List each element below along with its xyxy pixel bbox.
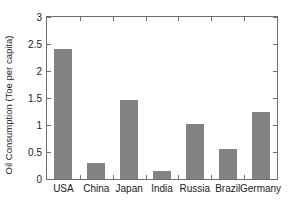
x-axis-tick-mirror <box>211 17 212 21</box>
y-axis-tick-mirror <box>273 17 277 18</box>
x-axis-tick-mirror <box>146 17 147 21</box>
x-axis-tick <box>80 175 81 179</box>
bar <box>153 171 171 179</box>
x-axis-tick-mirror <box>178 17 179 21</box>
bar <box>54 49 72 179</box>
y-axis-tick <box>47 71 51 72</box>
y-axis-tick-mirror <box>273 71 277 72</box>
y-axis-tick-label: 0 <box>36 174 42 185</box>
y-axis-tick-label: 0.5 <box>28 147 42 158</box>
x-axis-tick-label: USA <box>53 183 74 194</box>
y-axis-tick-mirror <box>273 125 277 126</box>
x-axis-tick-mirror <box>80 17 81 21</box>
y-axis-label: Oil Consumption (Toe per capita) <box>0 0 16 210</box>
y-axis-tick-label: 2 <box>36 66 42 77</box>
y-axis-tick <box>47 44 51 45</box>
x-axis-tick-mirror <box>113 17 114 21</box>
x-axis-tick-mirror <box>244 17 245 21</box>
x-axis-tick-label: India <box>151 183 173 194</box>
plot-area: 00.511.522.53USAChinaJapanIndiaRussiaBra… <box>46 16 278 180</box>
y-axis-tick <box>47 98 51 99</box>
x-axis-tick-label: China <box>83 183 109 194</box>
y-axis-tick-label: 2.5 <box>28 39 42 50</box>
y-axis-tick <box>47 179 51 180</box>
y-axis-tick <box>47 152 51 153</box>
y-axis-tick-label: 1.5 <box>28 93 42 104</box>
bar <box>120 100 138 179</box>
bar-chart-figure: Oil Consumption (Toe per capita) 00.511.… <box>0 0 294 210</box>
x-axis-tick <box>211 175 212 179</box>
y-axis-tick-label: 1 <box>36 120 42 131</box>
y-axis-tick-mirror <box>273 98 277 99</box>
bar <box>186 124 204 179</box>
bar <box>87 163 105 179</box>
y-axis-tick-mirror <box>273 44 277 45</box>
y-axis-tick-label: 3 <box>36 12 42 23</box>
bar <box>219 149 237 179</box>
x-axis-tick <box>178 175 179 179</box>
y-axis-tick-mirror <box>273 152 277 153</box>
x-axis-tick <box>146 175 147 179</box>
x-axis-tick-label: Russia <box>180 183 211 194</box>
bar <box>252 112 270 179</box>
y-axis-tick <box>47 17 51 18</box>
y-axis-tick <box>47 125 51 126</box>
x-axis-tick-label: Germany <box>240 183 281 194</box>
x-axis-tick <box>113 175 114 179</box>
x-axis-tick-label: Brazil <box>215 183 240 194</box>
x-axis-tick <box>244 175 245 179</box>
x-axis-tick-label: Japan <box>116 183 143 194</box>
y-axis-tick-mirror <box>273 179 277 180</box>
